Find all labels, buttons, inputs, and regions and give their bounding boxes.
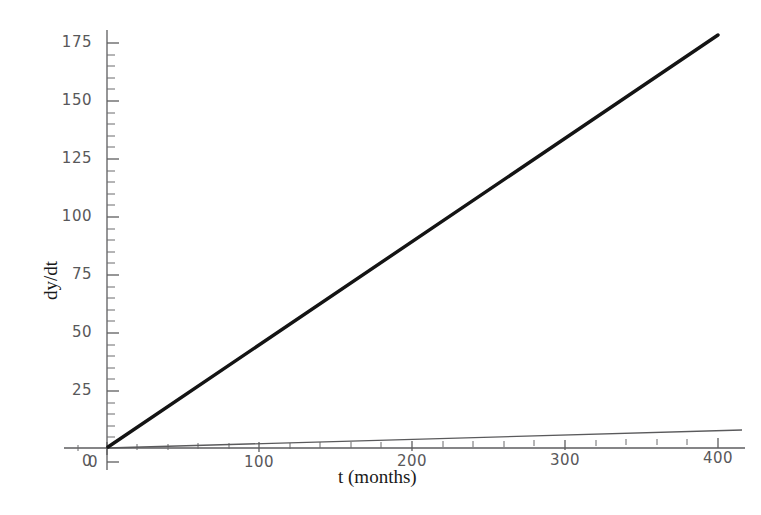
y-tick-label-150: 150	[30, 91, 92, 109]
y-tick-label-25: 25	[30, 381, 92, 399]
x-tick-label-400: 400	[693, 449, 743, 467]
x-tick-label-0: 0	[76, 453, 110, 471]
y-axis-minor-ticks	[107, 55, 115, 437]
series-line-upper	[108, 35, 718, 447]
y-axis-title: dy/dt	[40, 261, 62, 300]
x-tick-label-300: 300	[540, 451, 590, 469]
series-line-lower	[107, 430, 742, 448]
y-tick-label-50: 50	[30, 323, 92, 341]
plot-canvas	[0, 0, 761, 515]
y-tick-label-100: 100	[30, 207, 92, 225]
x-tick-label-100: 100	[234, 453, 284, 471]
y-tick-label-175: 175	[30, 33, 92, 51]
x-axis-title: t (months)	[338, 466, 417, 488]
y-tick-label-125: 125	[30, 149, 92, 167]
chart-figure: 175 150 125 100 75 50 25 0 0 100 200 300…	[0, 0, 761, 515]
